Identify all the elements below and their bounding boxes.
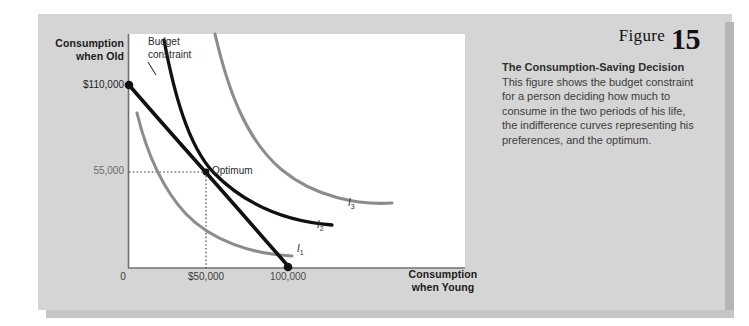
curve-label-i3-sub: 3 bbox=[351, 203, 355, 210]
x-axis-title: Consumption when Young bbox=[400, 268, 486, 294]
curve-label-i1: I1 bbox=[297, 243, 304, 256]
caption-title: The Consumption-Saving Decision bbox=[502, 61, 684, 73]
caption-body: This figure shows the budget constraint … bbox=[502, 75, 694, 148]
budget-constraint-annotation: Budget constraint bbox=[148, 36, 218, 61]
y-tick-label-110000: $110,000 bbox=[52, 79, 124, 90]
curve-label-i2-sub: 2 bbox=[320, 225, 324, 232]
curve-label-i2: I2 bbox=[317, 219, 324, 232]
curve-label-i3: I3 bbox=[348, 197, 355, 210]
optimum-annotation: Optimum bbox=[212, 165, 253, 176]
x-axis-title-line2: when Young bbox=[412, 281, 474, 293]
x-tick-label-100000: 100,000 bbox=[258, 271, 318, 282]
chart-plot-area bbox=[128, 34, 465, 268]
figure-heading: Figure15 bbox=[500, 22, 700, 56]
y-tick-label-55000: 55,000 bbox=[52, 165, 124, 176]
x-tick-label-0: 0 bbox=[113, 271, 133, 282]
figure-label-word: Figure bbox=[619, 26, 665, 45]
figure-number: 15 bbox=[671, 22, 700, 55]
x-tick-label-50000: $50,000 bbox=[178, 271, 234, 282]
curve-label-i1-sub: 1 bbox=[300, 249, 304, 256]
card-shadow-right bbox=[725, 22, 734, 318]
figure-caption: The Consumption-Saving Decision This fig… bbox=[502, 60, 694, 148]
y-axis-title-line2: when Old bbox=[76, 50, 124, 62]
x-axis-title-line1: Consumption bbox=[409, 268, 478, 280]
card-shadow-bottom bbox=[46, 310, 734, 318]
y-axis-title: Consumption when Old bbox=[52, 37, 124, 63]
y-axis-title-line1: Consumption bbox=[55, 37, 124, 49]
